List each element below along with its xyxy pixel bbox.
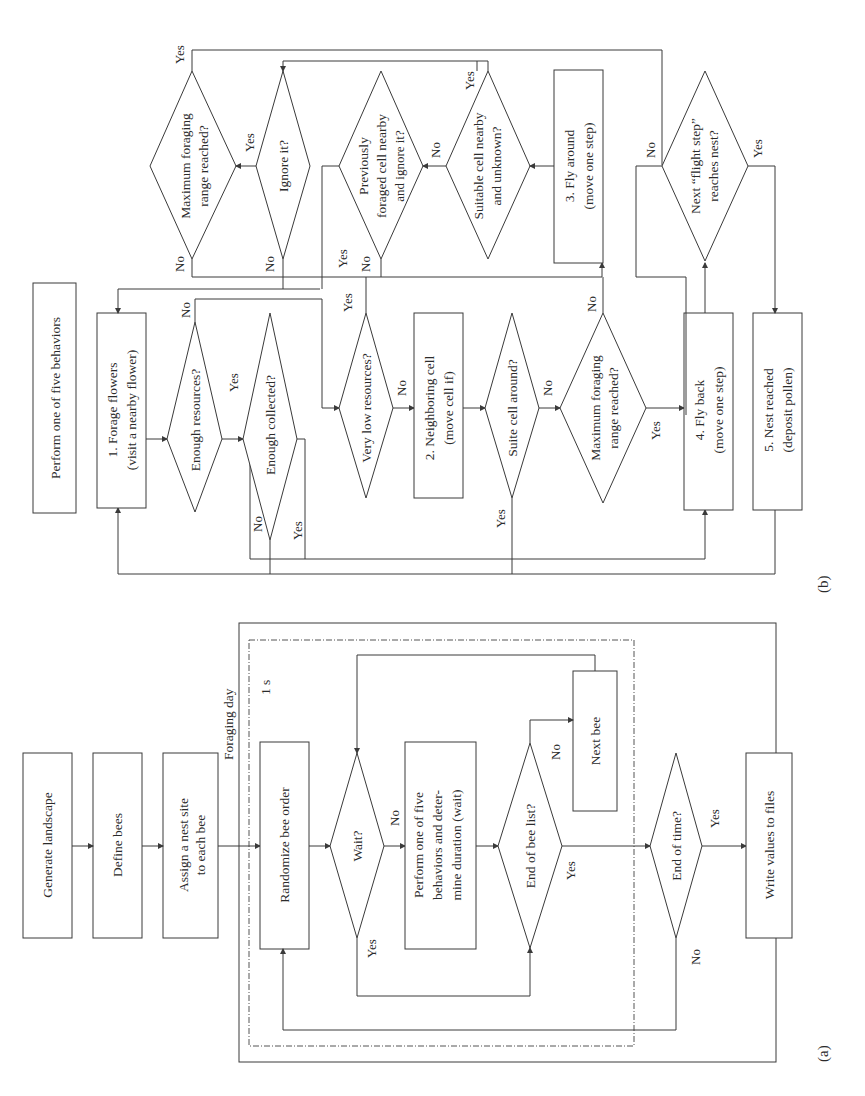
suitable-cell-decision [446,71,530,259]
max-range-lower-decision [560,313,646,503]
enough-resources-text: Enough resources? [188,369,203,471]
pf-yes-label: Yes [335,249,350,268]
mru-yes-label: Yes [172,45,187,64]
ig-no-label: No [262,256,277,272]
suite-cell-text: Suite cell around? [505,359,520,456]
fly-around-text-1: 3. Fly around [562,130,577,203]
very-low-text: Very low resources? [359,353,374,462]
randomize-text: Randomize bee order [277,787,292,903]
assign-nest-text-1: Assign a nest site [176,798,191,892]
prev-foraged-text-3: and ignore it? [392,130,407,202]
fly-back-text-1: 4. Fly back [692,380,707,441]
neighboring-text-2: (move cell if) [441,371,456,444]
max-range-lower-text-2: range reached? [606,367,621,448]
sc-no-label: No [540,380,555,396]
assign-nest-text-2: to each bee [193,815,208,876]
neighboring-text-1: 2. Neighboring cell [422,355,437,460]
max-range-upper-text-1: Maximum foraging [178,113,193,219]
fly-around-text-2: (move one step) [581,123,596,210]
er-no-label: No [178,302,193,318]
enough-collected-text: Enough collected? [263,375,278,475]
eot-yes-label: Yes [707,809,722,828]
ebl-no-label: No [548,744,563,760]
flowchart-figure: Foraging day 1 s Generate landscape Defi… [0,0,865,1096]
mrl-yes-label: Yes [648,421,663,440]
wait-text: Wait? [350,830,365,861]
forage-text-2: (visit a nearby flower) [124,350,139,470]
nf-yes-label: Yes [750,139,765,158]
su-yes-label: Yes [462,71,477,90]
eot-no-label: No [688,949,703,965]
ec-no-label: No [250,516,265,532]
max-range-upper-decision [150,71,236,259]
wait-yes-label: Yes [364,939,379,958]
next-flight-step-decision [662,71,748,261]
define-bees-text: Define bees [110,813,125,877]
nest-reached-text-1: 5. Nest reached [761,368,776,452]
mru-no-label: No [172,256,187,272]
one-second-label: 1 s [258,680,273,695]
er-yes-label: Yes [226,373,241,392]
panel-b-title: Perform one of five behaviors [48,317,63,479]
vl-yes-label: Yes [340,293,355,312]
next-flight-text-2: reaches nest? [706,130,721,202]
prev-foraged-text-1: Previously [356,137,371,195]
mrl-no-label: No [584,296,599,312]
nest-reached-text-2: (deposit pollen) [780,367,795,452]
vl-no-label: No [394,380,409,396]
ec-yes-label: Yes [290,521,305,540]
fly-back-text-2: (move one step) [711,367,726,454]
max-range-upper-text-2: range reached? [196,125,211,206]
sc-yes-label: Yes [493,509,508,528]
prev-foraged-text-2: foraged cell nearby [374,114,389,218]
next-bee-text: Next bee [588,717,603,765]
perform-text-3: mine duration (wait) [449,790,464,901]
max-range-lower-text-1: Maximum foraging [588,355,603,461]
perform-text-2: behaviors and deter- [430,790,445,900]
pf-no-label: No [358,256,373,272]
su-no-label: No [428,142,443,158]
ignore-it-text: Ignore it? [276,140,291,192]
end-time-text: End of time? [669,811,684,881]
wait-no-label: No [387,810,402,826]
panel-label-b: (b) [815,576,832,594]
suitable-text-1: Suitable cell nearby [471,112,486,219]
forage-text-1: 1. Forage flowers [105,363,120,458]
end-bee-list-text: End of bee list? [523,804,538,888]
foraging-day-label: Foraging day [221,688,236,760]
generate-landscape-text: Generate landscape [40,792,55,897]
panel-a: Foraging day 1 s Generate landscape Defi… [23,623,832,1062]
ebl-yes-label: Yes [563,861,578,880]
panel-b: Perform one of five behaviors 1. Forage … [33,45,832,593]
perform-text-1: Perform one of five [411,792,426,898]
nf-no-label: No [643,142,658,158]
ig-yes-label: Yes [242,133,257,152]
panel-label-a: (a) [815,1045,832,1062]
next-flight-text-1: Next “flight step” [688,118,703,214]
suitable-text-2: and unknown? [489,126,504,205]
write-values-text: Write values to files [762,791,777,900]
